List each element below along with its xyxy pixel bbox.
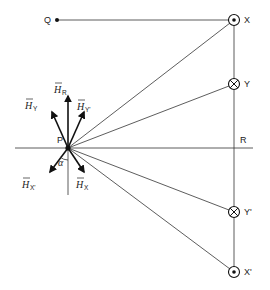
- vector-h-x-arrow: [68, 148, 84, 172]
- label-h-y-prime: H Y': [76, 100, 91, 113]
- label-r: R: [240, 135, 247, 145]
- diagram-canvas: Q X Y R Y' X' P α H R H Y H Y' H X': [0, 0, 270, 290]
- dot-icon: [232, 18, 236, 22]
- conductor-x: [229, 15, 240, 26]
- field-diagram: Q X Y R Y' X' P α H R H Y H Y' H X': [0, 0, 270, 290]
- label-y: Y: [244, 79, 250, 89]
- svg-text:R: R: [62, 89, 67, 96]
- conductor-x-prime: [229, 267, 240, 278]
- line-p-y: [68, 86, 229, 148]
- label-h-r: H R: [53, 83, 67, 96]
- label-p: P: [57, 135, 63, 145]
- q-point: [55, 18, 59, 22]
- svg-text:H: H: [24, 100, 33, 111]
- label-h-x-prime: H X': [21, 178, 36, 191]
- svg-text:H: H: [75, 179, 84, 190]
- svg-text:H: H: [21, 179, 30, 190]
- svg-text:Y: Y: [33, 105, 38, 112]
- label-x-prime: X': [244, 267, 252, 277]
- label-q: Q: [44, 15, 51, 25]
- svg-text:X': X': [30, 184, 36, 191]
- svg-text:H: H: [53, 84, 62, 95]
- conductor-y: [229, 79, 240, 90]
- svg-text:X: X: [84, 184, 89, 191]
- line-p-x: [68, 23, 230, 148]
- line-p-yprime: [68, 148, 229, 210]
- svg-text:H: H: [76, 101, 85, 112]
- svg-text:Y': Y': [85, 106, 91, 113]
- label-x: X: [244, 15, 250, 25]
- label-alpha: α: [58, 157, 64, 168]
- label-h-x: H X: [75, 178, 89, 191]
- conductor-y-prime: [229, 207, 240, 218]
- label-y-prime: Y': [244, 207, 252, 217]
- label-h-y: H Y: [24, 99, 38, 112]
- p-point: [65, 145, 70, 150]
- dot-icon: [232, 270, 236, 274]
- line-p-xprime: [68, 148, 230, 269]
